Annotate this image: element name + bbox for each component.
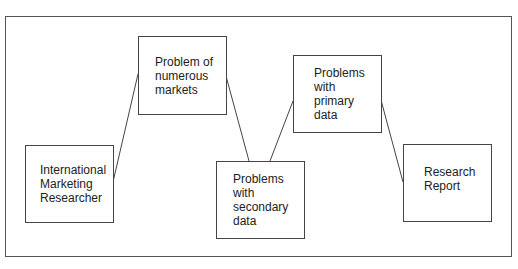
node-label: International Marketing Researcher (26, 163, 106, 205)
node-research-report: Research Report (403, 144, 492, 222)
node-label: Problems with primary data (294, 66, 365, 122)
node-problem-of-numerous-markets: Problem of numerous markets (138, 36, 227, 115)
node-international-marketing-researcher: International Marketing Researcher (25, 145, 114, 223)
node-problems-with-primary-data: Problems with primary data (293, 55, 382, 133)
node-problems-with-secondary-data: Problems with secondary data (216, 161, 305, 239)
node-label: Problem of numerous markets (139, 55, 213, 97)
node-label: Problems with secondary data (217, 172, 288, 228)
node-label: Research Report (404, 165, 475, 193)
